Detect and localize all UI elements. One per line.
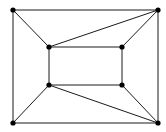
edge-outer-bottom-left-to-inner-bottom-left [13,85,49,123]
edge-outer-top-left-to-inner-top-left [13,10,49,47]
graph-diagram [0,0,166,132]
node-outer-top-left [10,7,15,12]
edge-outer-bottom-right-to-inner-bottom-right [122,85,158,123]
node-inner-bottom-right [119,82,124,87]
node-inner-top-right [119,44,124,49]
node-outer-bottom-right [155,120,160,125]
node-inner-bottom-left [46,82,51,87]
nodes-layer [10,7,160,125]
edges-layer [13,10,158,123]
node-inner-top-left [46,44,51,49]
edge-outer-top-right-to-inner-top-right [122,10,158,47]
node-outer-top-right [155,7,160,12]
edge-outer-top-right-to-inner-top-left [49,10,158,47]
node-outer-bottom-left [10,120,15,125]
edge-outer-bottom-right-to-inner-bottom-left [49,85,158,123]
